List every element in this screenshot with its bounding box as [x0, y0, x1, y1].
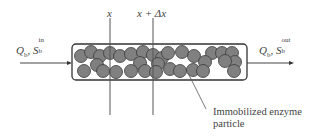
outlet-conc-sup: out — [281, 37, 290, 44]
outlet-conc-sub: b — [281, 48, 285, 55]
inlet-flow-symbol: Q — [16, 44, 24, 56]
inlet-separator: , — [27, 44, 30, 56]
position-label-x: x — [107, 8, 112, 19]
enzyme-particles — [75, 46, 242, 79]
particle-caption: Immobilized enzyme particle — [213, 106, 302, 130]
outlet-arrow — [247, 61, 294, 65]
position-label-x-plus-dx: x + Δx — [137, 8, 166, 19]
inlet-conc-sup: in — [38, 37, 43, 44]
outlet-flow-symbol: Q — [259, 44, 267, 56]
inlet-conc-sub: b — [38, 48, 42, 55]
inlet-arrow — [20, 61, 72, 65]
particle-leader-line — [188, 73, 206, 109]
outlet-separator: , — [270, 44, 273, 56]
particle-caption-line2: particle — [213, 118, 302, 130]
particle-caption-line1: Immobilized enzyme — [213, 106, 302, 118]
inlet-label: Qb, Sinb — [16, 42, 52, 56]
outlet-label: Qb, Soutb — [259, 42, 297, 56]
